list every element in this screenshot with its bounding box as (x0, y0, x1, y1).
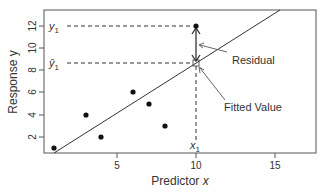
svg-text:4: 4 (27, 112, 38, 118)
svg-text:12: 12 (27, 20, 38, 32)
svg-text:10: 10 (190, 160, 202, 171)
guide-lines (67, 26, 196, 142)
y-axis-label: Response y (6, 50, 20, 113)
y1-label: y1 (48, 20, 60, 35)
svg-text:15: 15 (269, 160, 281, 171)
plot-frame (44, 10, 316, 153)
svg-text:6: 6 (27, 89, 38, 95)
x-axis-tick-labels: 5 10 15 (114, 160, 281, 171)
data-points (51, 23, 198, 150)
annotation-pointers (199, 43, 227, 100)
svg-text:2: 2 (27, 134, 38, 140)
fit-line (54, 10, 280, 153)
scatter-plot: 2 4 6 8 10 12 Response y 5 10 15 Predict… (0, 0, 323, 192)
svg-text:5: 5 (114, 160, 120, 171)
x1-label: x1 (189, 139, 201, 154)
svg-text:8: 8 (27, 67, 38, 73)
y-axis-tick-labels: 2 4 6 8 10 12 (27, 20, 38, 140)
yhat1-label: ŷ1 (48, 57, 60, 72)
residual-arrow (192, 28, 200, 61)
fitted-value-label: Fitted Value (224, 101, 282, 113)
svg-text:10: 10 (27, 42, 38, 54)
y-axis-ticks (39, 26, 44, 137)
residual-label: Residual (232, 54, 275, 66)
x-axis-label: Predictor x (151, 174, 209, 188)
